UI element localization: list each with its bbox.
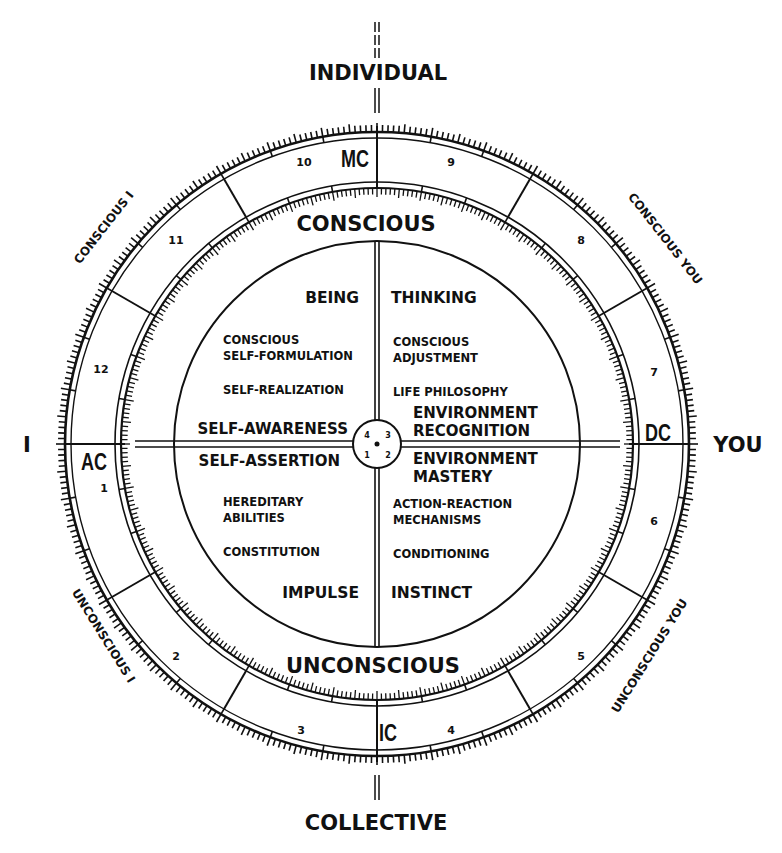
center-number-2: 2 xyxy=(385,451,391,460)
impulse-item1-line2: ABILITIES xyxy=(223,511,285,525)
impulse-item1-line1: HEREDITARY xyxy=(223,495,304,509)
house-number-2: 2 xyxy=(172,650,180,663)
house-number-3: 3 xyxy=(297,724,305,737)
quadrant-lower-left: SELF-ASSERTION HEREDITARY ABILITIES CONS… xyxy=(199,452,359,602)
axis-label-environment-recognition-2: RECOGNITION xyxy=(413,422,530,440)
axis-label-self-awareness: SELF-AWARENESS xyxy=(197,420,348,438)
arc-label-unconscious-you: UNCONSCIOUS YOU xyxy=(609,596,691,715)
thinking-item1-line2: ADJUSTMENT xyxy=(393,351,478,365)
instinct-item1-line2: MECHANISMS xyxy=(393,513,481,527)
quadrant-lower-right: ENVIRONMENT MASTERY ACTION-REACTION MECH… xyxy=(391,450,539,602)
center-number-3: 3 xyxy=(385,431,391,440)
house-number-12: 12 xyxy=(93,363,108,376)
direction-left-i: I xyxy=(23,433,31,457)
angle-ac: AC xyxy=(81,449,107,475)
quadrant-title-being: BEING xyxy=(305,289,359,307)
hemisphere-conscious: CONSCIOUS xyxy=(296,212,435,236)
center-dot xyxy=(375,442,380,447)
house-number-11: 11 xyxy=(168,234,183,247)
angle-ic: IC xyxy=(379,720,397,746)
house-number-10: 10 xyxy=(296,156,312,169)
thinking-item2: LIFE PHILOSOPHY xyxy=(393,385,508,399)
center-number-4: 4 xyxy=(364,431,370,440)
direction-right-you: YOU xyxy=(712,433,762,457)
being-item1-line1: CONSCIOUS xyxy=(223,333,299,347)
quadrant-upper-left: BEING CONSCIOUS SELF-FORMULATION SELF-RE… xyxy=(197,289,359,438)
quadrant-title-thinking: THINKING xyxy=(391,289,477,307)
thinking-item1-line1: CONSCIOUS xyxy=(393,335,469,349)
wheel-svg: 4 3 1 2 INDIVIDUAL COLLECTIVE I YOU MC I… xyxy=(0,0,782,853)
impulse-item2: CONSTITUTION xyxy=(223,545,320,559)
axis-label-environment-mastery-1: ENVIRONMENT xyxy=(413,450,539,468)
direction-top-individual: INDIVIDUAL xyxy=(309,61,447,85)
center-number-1: 1 xyxy=(364,451,370,460)
quadrant-title-instinct: INSTINCT xyxy=(391,584,473,602)
quadrant-title-impulse: IMPULSE xyxy=(282,584,359,602)
house-number-9: 9 xyxy=(447,156,455,169)
instinct-item1-line1: ACTION-REACTION xyxy=(393,497,512,511)
being-item1-line2: SELF-FORMULATION xyxy=(223,349,353,363)
house-number-7: 7 xyxy=(650,366,658,379)
house-number-6: 6 xyxy=(650,515,658,528)
being-item2: SELF-REALIZATION xyxy=(223,383,344,397)
house-number-8: 8 xyxy=(577,234,585,247)
house-number-1: 1 xyxy=(100,482,108,495)
angle-dc: DC xyxy=(645,420,671,446)
axis-label-environment-mastery-2: MASTERY xyxy=(413,468,494,486)
quadrant-upper-right: THINKING CONSCIOUS ADJUSTMENT LIFE PHILO… xyxy=(391,289,539,440)
house-number-5: 5 xyxy=(577,650,585,663)
house-wheel-diagram: 4 3 1 2 INDIVIDUAL COLLECTIVE I YOU MC I… xyxy=(0,0,782,853)
axis-label-self-assertion: SELF-ASSERTION xyxy=(199,452,340,470)
hemisphere-unconscious: UNCONSCIOUS xyxy=(286,654,460,678)
angle-mc: MC xyxy=(341,146,369,172)
direction-bottom-collective: COLLECTIVE xyxy=(305,811,448,835)
house-number-4: 4 xyxy=(447,724,455,737)
instinct-item2: CONDITIONING xyxy=(393,547,490,561)
axis-label-environment-recognition-1: ENVIRONMENT xyxy=(413,404,539,422)
